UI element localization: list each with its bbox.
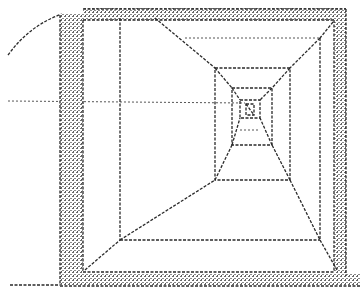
frame-band-left [60, 14, 83, 286]
frame-band-bottom [60, 274, 360, 286]
outer-arc [8, 14, 62, 55]
frame-band-top [83, 8, 346, 20]
far-cross [246, 104, 254, 115]
horizon-line [8, 101, 245, 103]
frame-band-right [334, 20, 346, 276]
frame-border [60, 8, 360, 286]
depth-frame-2 [215, 68, 290, 180]
game-viewport [0, 0, 363, 302]
corridor [85, 18, 337, 270]
